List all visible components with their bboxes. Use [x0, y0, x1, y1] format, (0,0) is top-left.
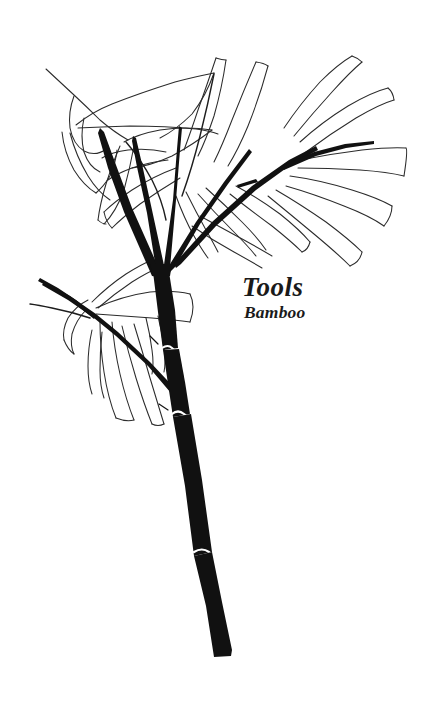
- leaf-outline-group: [46, 56, 407, 426]
- leaf-mid-right-d: [198, 194, 256, 256]
- leaf-ll-right-a: [96, 291, 190, 308]
- page-title: Tools: [238, 272, 388, 302]
- bamboo-drawing: [0, 0, 432, 715]
- culm-branch-stub-2: [159, 404, 168, 410]
- illustration-page: Tools Bamboo: [0, 0, 432, 715]
- culm-segment-1: [153, 272, 178, 350]
- main-culm-group: [150, 264, 232, 657]
- culm-top-junction: [150, 264, 172, 276]
- branch-up-right: [167, 149, 252, 272]
- leaf-right-down-tip: [384, 206, 392, 226]
- leaf-upright-tip-b: [388, 88, 394, 100]
- leaf-curl-a: [70, 96, 107, 154]
- leaf-right-steep-tip: [350, 252, 362, 266]
- page-subtitle: Bamboo: [238, 302, 388, 322]
- leaf-upright-tip-a: [352, 56, 362, 62]
- leaf-curl-b: [82, 118, 100, 172]
- leaf-vertical-c: [214, 62, 256, 162]
- leaf-right-down-b: [286, 186, 384, 226]
- leaf-droop-left-a: [62, 132, 96, 193]
- leaf-ll-right-tip: [190, 294, 193, 322]
- leaf-vertical-b: [198, 60, 226, 156]
- leaf-vertical-tip-b: [256, 62, 268, 66]
- leaf-upright-c: [300, 88, 388, 142]
- leaf-ll-upright-a: [92, 260, 152, 302]
- caption-block: Tools Bamboo: [238, 272, 388, 322]
- leaf-upright-b: [294, 62, 362, 136]
- thin-branch-b: [182, 74, 214, 196]
- branch-right-horizontal: [282, 141, 374, 170]
- leaf-vertical-tip-a: [216, 58, 226, 60]
- leaf-tip-upper-left: [46, 69, 128, 140]
- culm-segment-4: [194, 552, 232, 657]
- leaf-right-horiz-b: [298, 168, 404, 176]
- leaf-ll-down-a: [88, 330, 92, 394]
- culm-segment-3: [173, 414, 212, 556]
- leaf-ll-right-b: [96, 314, 190, 322]
- leaf-right-horiz-tip: [404, 148, 407, 176]
- leaf-mid-right-tip: [302, 242, 310, 252]
- leaf-right-down-a: [290, 176, 392, 206]
- leaf-lower-center-a: [200, 216, 272, 256]
- leaf-ll-droop-tip-a: [116, 418, 134, 421]
- leaf-ll-curl-tip: [64, 340, 74, 354]
- leaf-upright-a: [284, 56, 352, 128]
- leaf-left-center-tip: [98, 220, 106, 224]
- leaf-ll-droop-tip-b: [152, 424, 164, 426]
